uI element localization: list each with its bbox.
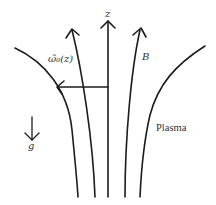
plasma-label: Plasma <box>156 123 186 134</box>
omega-label: ω̃₀(z) <box>48 54 73 64</box>
outer-left-field-line <box>15 48 78 197</box>
gravity-label: g <box>28 141 34 151</box>
inner-right-field-line <box>125 30 140 197</box>
field-b-label: B <box>142 52 149 62</box>
field-line-diagram <box>0 0 216 205</box>
z-axis-label: z <box>105 9 110 19</box>
